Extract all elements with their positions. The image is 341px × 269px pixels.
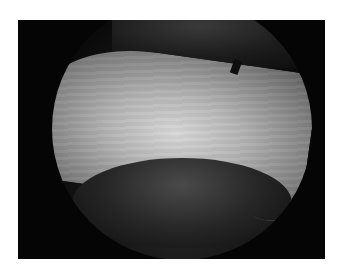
arthroscope-field: [52, 20, 312, 259]
image-frame: [18, 20, 325, 259]
